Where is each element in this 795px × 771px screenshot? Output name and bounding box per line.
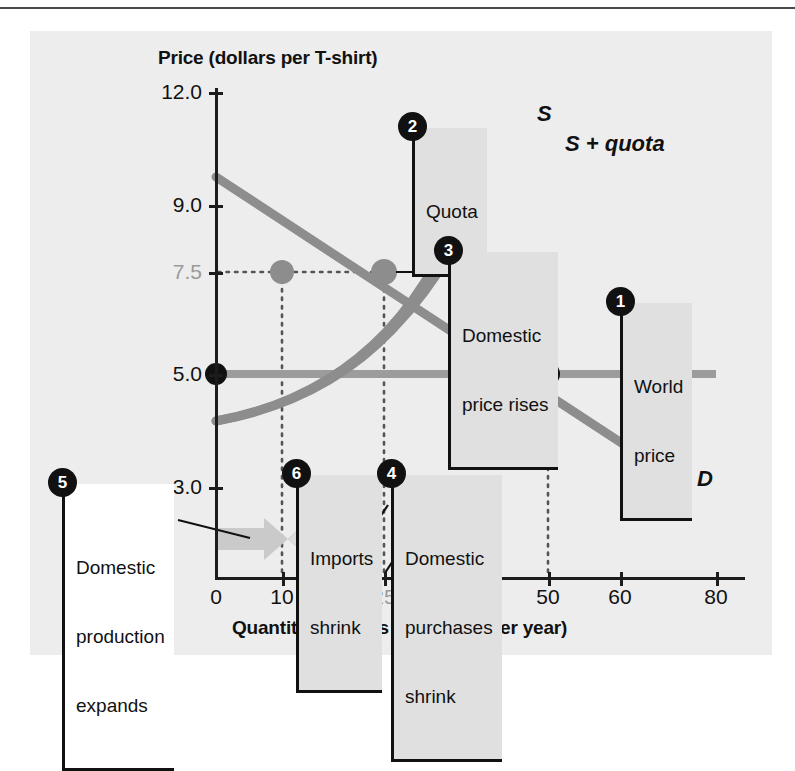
callout-price-rises-number: 3 (434, 236, 463, 265)
callout-purchases-shrink-line1: Domestic (405, 547, 493, 570)
x-label-0: 0 (186, 585, 246, 609)
callout-purchases-shrink-line3: shrink (405, 685, 493, 708)
callout-price-rises[interactable]: 3 Domestic price rises (448, 252, 558, 470)
callout-imports-shrink-line2: shrink (310, 616, 373, 639)
supply-curve-label: S (537, 101, 552, 127)
callout-world-price-line2: price (634, 444, 683, 467)
supply-plus-quota-curve-label: S + quota (565, 131, 665, 157)
y-label-12: 12.0 (132, 80, 202, 104)
y-tick-9 (209, 205, 223, 208)
callout-world-price[interactable]: 1 World price (620, 303, 692, 521)
domestic-production-arrow (218, 518, 288, 560)
callout-world-price-number: 1 (606, 287, 635, 316)
callout-production-expands-number: 5 (48, 468, 77, 497)
callout-price-rises-line1: Domestic (462, 324, 549, 347)
callout-quota-number: 2 (398, 112, 427, 141)
callout-production-expands[interactable]: 5 Domestic production expands (62, 484, 174, 771)
callout-imports-shrink-number: 6 (282, 459, 311, 488)
callout-quota-line1: Quota (426, 200, 478, 223)
x-tick-80 (716, 572, 719, 586)
callout-imports-shrink-line1: Imports (310, 547, 373, 570)
y-tick-12 (209, 92, 223, 95)
x-tick-60 (620, 572, 623, 586)
y-tick-7-5 (209, 272, 223, 275)
callout-purchases-shrink-line2: purchases (405, 616, 493, 639)
y-label-7-5: 7.5 (132, 260, 202, 284)
callout-price-rises-line2: price rises (462, 393, 549, 416)
x-tick-50 (548, 572, 551, 586)
callout-purchases-shrink[interactable]: 4 Domestic purchases shrink (391, 475, 502, 762)
y-label-9: 9.0 (132, 193, 202, 217)
y-tick-3 (209, 487, 223, 490)
callout-production-expands-line2: production (76, 625, 165, 648)
x-tick-10 (282, 572, 285, 586)
y-tick-5 (209, 374, 223, 377)
y-axis-title: Price (dollars per T-shirt) (158, 47, 378, 69)
callout-purchases-shrink-number: 4 (377, 459, 406, 488)
y-axis (215, 88, 218, 580)
x-label-60: 60 (590, 585, 650, 609)
x-label-80: 80 (686, 585, 746, 609)
x-label-50: 50 (518, 585, 578, 609)
x-tick-25 (384, 572, 387, 586)
demand-curve-label: D (697, 466, 713, 492)
marker-domestic-supply (270, 260, 294, 284)
callout-world-price-line1: World (634, 375, 683, 398)
y-label-5: 5.0 (132, 362, 202, 386)
callout-imports-shrink[interactable]: 6 Imports shrink (296, 475, 382, 693)
callout-production-expands-line3: expands (76, 694, 165, 717)
callout-production-expands-line1: Domestic (76, 556, 165, 579)
marker-new-equilibrium (371, 259, 397, 285)
